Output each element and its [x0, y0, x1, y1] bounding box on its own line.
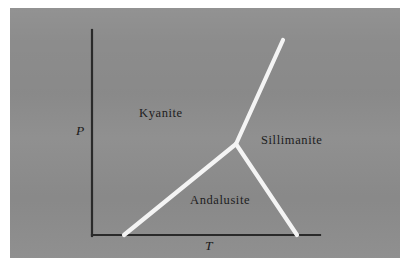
region-label-kyanite: Kyanite [139, 106, 183, 121]
x-axis-label: T [205, 238, 213, 254]
phase-diagram-figure: Kyanite Sillimanite Andalusite P T [0, 0, 410, 277]
y-axis-label: P [76, 123, 84, 139]
region-label-sillimanite: Sillimanite [261, 133, 322, 148]
region-label-andalusite: Andalusite [190, 193, 250, 208]
kyanite-andalusite-boundary [124, 144, 236, 235]
phase-diagram-plot [0, 0, 410, 277]
andalusite-sillimanite-boundary [236, 144, 297, 235]
kyanite-sillimanite-boundary [236, 40, 283, 144]
